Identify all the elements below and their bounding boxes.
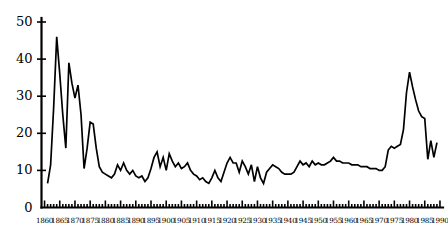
y-tick-label: 30 <box>16 88 33 103</box>
y-tick-label: 40 <box>16 51 33 66</box>
y-tick-label: 0 <box>24 200 32 215</box>
line-chart: 01020304050 1860186518701875188018851890… <box>0 0 448 240</box>
x-tick-label: 1990 <box>431 216 448 225</box>
chart-plot-area: 01020304050 1860186518701875188018851890… <box>0 0 448 240</box>
y-tick-label: 20 <box>16 125 33 140</box>
y-tick-label: 50 <box>16 14 33 29</box>
y-axis: 01020304050 <box>16 14 46 215</box>
data-series-group <box>48 37 437 184</box>
x-axis: 1860186518701875188018851890189519001905… <box>36 201 448 225</box>
y-tick-label: 10 <box>16 162 33 177</box>
data-line-series-1 <box>48 37 437 184</box>
